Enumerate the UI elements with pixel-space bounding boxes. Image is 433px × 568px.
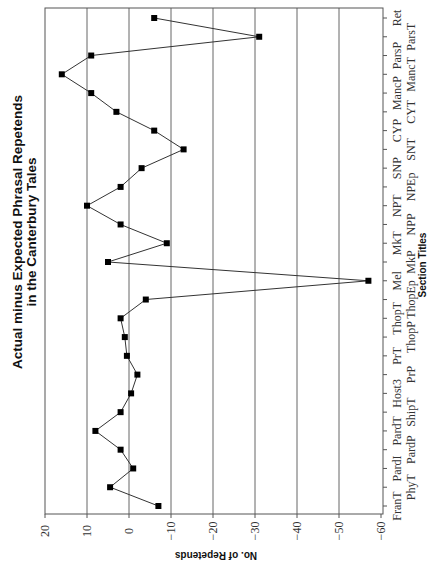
category-tick-label: CYP <box>390 119 404 143</box>
category-tick-label: NPT <box>390 194 404 217</box>
value-tick-label: −60 <box>374 522 388 541</box>
data-point-marker <box>128 390 134 396</box>
category-tick-label: MkT <box>390 231 404 256</box>
category-axis-ticks: FranTPhyTPardIPardPPardTShipTHost3PrPPrT… <box>383 9 418 521</box>
data-point-marker <box>122 334 128 340</box>
data-point-marker <box>365 278 371 284</box>
value-tick-label: −30 <box>248 522 262 541</box>
value-tick-label: −40 <box>290 522 304 541</box>
value-axis-ticks: 20100−10−20−30−40−50−60 <box>38 514 388 540</box>
rotated-line-chart: 20100−10−20−30−40−50−60 FranTPhyTPardIPa… <box>0 0 433 568</box>
category-tick-label: Host3 <box>390 379 404 408</box>
category-tick-label: Ret <box>390 9 404 26</box>
value-axis-title: No. of Repetends <box>174 550 257 561</box>
value-tick-label: 0 <box>122 528 136 534</box>
chart-title-line-2: in the Canterbury Tales <box>24 157 39 306</box>
data-point-marker <box>118 409 124 415</box>
data-point-marker <box>124 353 130 359</box>
category-tick-label: CYT <box>404 99 418 124</box>
value-tick-label: −50 <box>332 522 346 541</box>
category-tick-label: PardP <box>404 435 418 464</box>
category-tick-label: MancT <box>404 56 418 91</box>
category-tick-label: SNT <box>404 137 418 160</box>
category-tick-label: MkP <box>404 250 418 274</box>
category-tick-label: PrP <box>404 366 418 384</box>
data-point-marker <box>105 259 111 265</box>
data-point-marker <box>118 315 124 321</box>
data-point-marker <box>118 221 124 227</box>
category-tick-label: MancP <box>390 76 404 110</box>
data-point-marker <box>151 15 157 21</box>
data-point-marker <box>256 34 262 40</box>
category-tick-label: NPEp <box>404 173 418 202</box>
data-point-marker <box>155 503 161 509</box>
data-point-marker <box>118 447 124 453</box>
category-tick-label: Mel <box>390 270 404 290</box>
data-point-marker <box>164 240 170 246</box>
data-point-marker <box>130 465 136 471</box>
value-tick-label: −20 <box>206 522 220 541</box>
data-point-marker <box>134 372 140 378</box>
data-point-marker <box>84 203 90 209</box>
series-markers <box>59 15 372 509</box>
data-point-marker <box>92 428 98 434</box>
data-point-marker <box>88 53 94 59</box>
data-point-marker <box>143 297 149 303</box>
gridlines <box>87 8 339 514</box>
chart-title-line-1: Actual minus Expected Phrasal Repetends <box>10 95 25 369</box>
category-tick-label: SNP <box>390 157 404 179</box>
category-tick-label: ParsP <box>390 42 404 70</box>
category-tick-label: ThopT <box>390 301 404 334</box>
value-tick-label: 10 <box>80 525 94 537</box>
data-point-marker <box>118 184 124 190</box>
category-tick-label: ThopEp <box>404 280 418 319</box>
data-point-marker <box>181 146 187 152</box>
category-axis-title: Section Titles <box>417 232 428 297</box>
category-tick-label: NPP <box>404 213 418 235</box>
category-tick-label: PardI <box>390 455 404 481</box>
category-tick-label: PrT <box>390 346 404 365</box>
value-tick-label: 20 <box>38 525 52 537</box>
data-point-marker <box>139 165 145 171</box>
data-point-marker <box>151 128 157 134</box>
chart-title: Actual minus Expected Phrasal Repetends … <box>10 95 39 369</box>
data-point-marker <box>59 71 65 77</box>
plot-frame <box>45 8 383 514</box>
value-tick-label: −10 <box>164 522 178 541</box>
category-tick-label: FranT <box>390 491 404 521</box>
data-point-marker <box>88 90 94 96</box>
category-tick-label: ParsT <box>404 22 418 51</box>
category-tick-label: PardT <box>390 416 404 446</box>
data-point-marker <box>113 109 119 115</box>
category-tick-label: PhyT <box>404 474 418 501</box>
category-tick-label: ShipT <box>404 397 418 427</box>
data-point-marker <box>107 484 113 490</box>
category-tick-label: ThopP <box>404 321 418 353</box>
